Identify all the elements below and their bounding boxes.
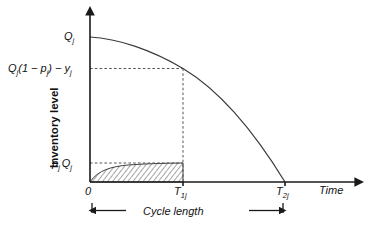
svg-text:pjQj: pjQj: [51, 157, 72, 172]
hatched-area: [90, 163, 183, 182]
y-axis-title: Inventory level: [48, 87, 60, 168]
svg-text:Qj(1 − pj) − yj: Qj(1 − pj) − yj: [8, 62, 72, 77]
y-label-part-1: (1 −: [18, 62, 40, 74]
y-label-pj-qj: pjQj: [51, 157, 72, 172]
x-label-t2j-sub: 2j: [282, 191, 289, 200]
y-label-qj-sub: j: [72, 36, 75, 45]
cycle-length-label: Cycle length: [143, 205, 204, 217]
y-label-pjqj-p-sub: j: [57, 163, 60, 172]
y-label-pjqj-p: p: [51, 157, 58, 169]
y-label-pjqj-q-sub: j: [69, 163, 72, 172]
y-label-part-4-sub: j: [69, 68, 72, 77]
x-label-t1j: T1j: [174, 185, 187, 200]
y-label-qj-1-minus-pj-minus-yj: Qj(1 − pj) − yj: [8, 62, 72, 77]
x-label-t2j: T2j: [276, 185, 289, 200]
svg-text:Qj: Qj: [64, 30, 75, 45]
svg-text:T2j: T2j: [276, 185, 289, 200]
y-label-part-2: p: [40, 62, 47, 74]
inventory-diagram: Inventory level Qj Qj(1 − pj) − yj pjQj …: [0, 0, 375, 227]
svg-text:T1j: T1j: [174, 185, 187, 200]
x-axis-title: Time: [319, 184, 343, 196]
x-label-t1j-sub: 1j: [181, 191, 187, 200]
diagram-canvas: Inventory level Qj Qj(1 − pj) − yj pjQj …: [0, 0, 375, 227]
origin-label: 0: [85, 185, 92, 197]
y-label-part-3: ) −: [46, 62, 64, 74]
y-label-qj: Qj: [64, 30, 75, 45]
inventory-depletion-curve: [90, 37, 285, 182]
